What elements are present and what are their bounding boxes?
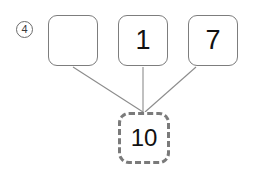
connector-line-left — [73, 67, 143, 112]
number-bond-diagram: 4 1 7 10 — [0, 0, 253, 178]
problem-number-badge: 4 — [16, 21, 33, 38]
part-box-one-value: 1 — [135, 27, 150, 54]
part-box-empty[interactable] — [48, 15, 98, 66]
problem-number-label: 4 — [21, 24, 27, 35]
part-box-one[interactable]: 1 — [118, 15, 168, 66]
part-box-seven-value: 7 — [205, 27, 220, 54]
whole-box-value: 10 — [131, 126, 158, 150]
connector-line-right — [145, 67, 196, 112]
whole-box[interactable]: 10 — [118, 112, 170, 164]
part-box-seven[interactable]: 7 — [188, 15, 238, 66]
